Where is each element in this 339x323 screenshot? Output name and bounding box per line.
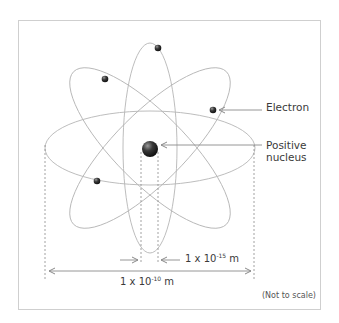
electron-label: Electron [266, 101, 309, 113]
electron-dot [210, 107, 217, 114]
nucleus-size-label: 1 x 10-15 m [185, 253, 239, 265]
nucleus-label-line2: nucleus [266, 151, 307, 163]
atom-size-exponent: -10 [151, 275, 161, 282]
electron-dot [102, 76, 109, 83]
nucleus-size-unit: m [226, 253, 239, 264]
nucleus-ball [142, 141, 158, 157]
atom-size-label: 1 x 10-10 m [120, 276, 174, 288]
nucleus-label: Positive nucleus [266, 139, 307, 163]
not-to-scale-note: (Not to scale) [262, 291, 316, 300]
nucleus-size-base: 1 x 10 [185, 253, 216, 264]
atom-size-unit: m [161, 276, 174, 287]
nucleus-label-line1: Positive [266, 139, 307, 151]
electron-dot [94, 178, 101, 185]
atom-size-base: 1 x 10 [120, 276, 151, 287]
nucleus-size-exponent: -15 [216, 252, 226, 259]
electron-dot [155, 45, 162, 52]
